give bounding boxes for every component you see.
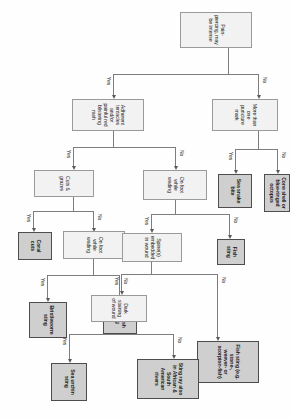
edge-label-spines-no: No [221, 277, 227, 283]
edge-label-puncture-no: No [281, 152, 287, 158]
edge-label-puncture-yes: Yes [228, 152, 234, 160]
edge-label-cuts-yes: Yes [26, 214, 32, 222]
edge-label-foot2-no: No [233, 217, 239, 223]
connector-foot1-split [48, 275, 120, 276]
connector-pain-down [114, 74, 229, 75]
edge-label-foot2-yes: Yes [144, 217, 150, 225]
connector-puncture-split [236, 149, 278, 150]
node-label: Bristleworm sting [42, 305, 54, 335]
connector-foot2-no [229, 214, 230, 236]
node-question-on-foot-wading-lower[interactable]: On foot while wading [143, 170, 207, 200]
connector-dark-no [173, 334, 174, 356]
edge-label-foot1-yes: Yes [40, 278, 46, 286]
node-outcome-sting-ray[interactable]: Sting ray also in African & South Americ… [137, 359, 199, 399]
connector-tentacles-yes [73, 147, 74, 167]
node-label: Dark staining of wound [110, 298, 127, 319]
node-label: Cone shell or blue-ringed octopus [268, 177, 285, 209]
node-question-dark-staining[interactable]: Dark staining of wound [91, 295, 147, 322]
edge-label-dark-no: No [177, 337, 183, 343]
node-question-spines-embedded[interactable]: Spine(s) embedded in wound [122, 233, 182, 262]
connector-pain-no [258, 74, 259, 96]
node-label: Spine(s) embedded in wound [143, 236, 160, 260]
node-label: Sea snake bite [229, 177, 241, 205]
node-label: More than one puncture mark [233, 102, 256, 128]
connector-tentacles-split [74, 147, 176, 148]
node-label: On foot while wading [85, 234, 102, 256]
node-question-tentacles[interactable]: Adherent tentacles and/or painful red bl… [72, 99, 144, 131]
connector-pain-yes [113, 74, 114, 96]
connector-spines-no [217, 274, 218, 338]
node-outcome-cone-shell[interactable]: Cone shell or blue-ringed octopus [264, 174, 290, 212]
node-outcome-sea-urchin-sting[interactable]: Sea urchin sting [51, 363, 87, 401]
node-question-puncture[interactable]: More than one puncture mark [212, 99, 278, 131]
diagram-page: No Yes No Yes No Yes No Yes No Yes No Ye… [0, 0, 292, 418]
node-label: Sting ray also in African & South Americ… [153, 362, 182, 396]
node-label: Fish sting [225, 242, 237, 262]
edge-label-tentacles-yes: Yes [66, 150, 72, 158]
connector-foot1-yes [47, 275, 48, 299]
connector-tentacles-no [175, 147, 176, 167]
node-question-cuts-grazes[interactable]: Cuts & grazes [34, 170, 94, 197]
edge-label-tentacles-no: No [179, 150, 185, 156]
node-outcome-fish-sting-detailed[interactable]: Fish sting (e.g. stone-, weever- or scor… [197, 341, 259, 383]
connector-foot2-split [152, 214, 230, 215]
connector-spines-out [151, 262, 152, 274]
edge-label-foot1-no: No [123, 278, 129, 284]
node-outcome-coral-cuts[interactable]: Coral cuts [18, 232, 52, 260]
connector-cuts-out [73, 197, 74, 211]
node-outcome-bristleworm-sting[interactable]: Bristleworm sting [29, 302, 67, 338]
connector-foot1-out [93, 259, 94, 275]
node-label: Cuts & grazes [58, 173, 70, 194]
node-label: On foot while wading [166, 173, 183, 197]
connector-cuts-split [34, 211, 94, 212]
connector-pain-up [228, 74, 259, 75]
connector-cuts-no [93, 211, 94, 229]
edge-label-pain-no: No [262, 77, 268, 83]
flowchart-canvas: No Yes No Yes No Yes No Yes No Yes No Ye… [0, 0, 292, 418]
connector-puncture-no [277, 149, 278, 171]
node-label: Fish sting (e.g. stone-, weever- or scor… [216, 344, 239, 380]
edge-label-dark-yes: Yes [62, 337, 68, 345]
connector-puncture-yes [235, 149, 236, 171]
node-label: Pain-piercing, may be intense [207, 15, 224, 45]
connector-cuts-yes [33, 211, 34, 229]
node-question-pain[interactable]: Pain-piercing, may be intense [180, 12, 252, 48]
connector-spines-split [122, 274, 218, 275]
node-label: Adherent tentacles and/or painful red bl… [91, 102, 126, 128]
connector-dark-yes [69, 334, 70, 360]
connector-spines-yes [121, 274, 122, 292]
node-label: Coral cuts [29, 235, 41, 257]
connector-tentacles-out [113, 131, 114, 147]
connector-foot2-yes [151, 214, 152, 230]
node-label: Sea urchin sting [63, 366, 75, 398]
connector-foot2-out [175, 200, 176, 214]
node-question-on-foot-wading-upper[interactable]: On foot while wading [63, 231, 125, 259]
edge-label-pain-yes: Yes [106, 77, 112, 85]
node-outcome-fish-sting[interactable]: Fish sting [217, 239, 245, 265]
connector-dark-split [70, 334, 174, 335]
edge-label-spines-yes: Yes [114, 277, 120, 285]
edge-label-cuts-no: No [97, 214, 103, 220]
node-outcome-sea-snake-bite[interactable]: Sea snake bite [218, 174, 252, 208]
connector-pain-trunk [228, 48, 229, 74]
connector-puncture-out [258, 131, 259, 149]
